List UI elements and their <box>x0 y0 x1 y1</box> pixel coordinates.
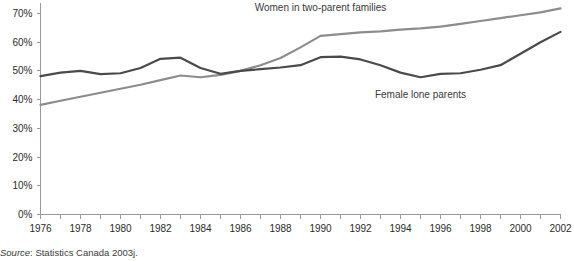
x-tick-label: 1990 <box>309 223 332 234</box>
y-tick-label: 0% <box>18 209 33 220</box>
series-line-female-lone-parents <box>41 32 561 77</box>
x-tick-label: 2002 <box>549 223 572 234</box>
x-tick-label: 1980 <box>109 223 132 234</box>
source-note: Source: Statistics Canada 2003j. <box>0 247 138 258</box>
x-tick-label: 1986 <box>229 223 252 234</box>
x-tick-label: 1994 <box>389 223 412 234</box>
series-annotations: Women in two-parent familiesFemale lone … <box>255 2 466 100</box>
y-tick-label: 40% <box>12 94 32 105</box>
plot-area <box>41 8 561 104</box>
source-text: Statistics Canada 2003j. <box>35 247 137 258</box>
chart-canvas: 0%10%20%30%40%50%60%70% 1976197819801982… <box>0 0 574 261</box>
y-tick-label: 10% <box>12 180 32 191</box>
x-tick-label: 1982 <box>149 223 172 234</box>
x-tick-label: 1978 <box>69 223 92 234</box>
x-tick-label: 2000 <box>509 223 532 234</box>
series-annotation-label: Women in two-parent families <box>255 2 387 13</box>
x-tick-label: 1996 <box>429 223 452 234</box>
y-tick-label: 50% <box>12 65 32 76</box>
x-tick-label: 1992 <box>349 223 372 234</box>
y-tick-label: 70% <box>12 8 32 19</box>
line-chart: 0%10%20%30%40%50%60%70% 1976197819801982… <box>0 0 574 261</box>
series-line-women-in-two-parent-families <box>41 8 561 104</box>
x-tick-label: 1976 <box>29 223 52 234</box>
x-tick-label: 1998 <box>469 223 492 234</box>
x-tick-label: 1988 <box>269 223 292 234</box>
y-tick-label: 60% <box>12 37 32 48</box>
source-prefix: Source <box>0 247 30 258</box>
y-tick-label: 20% <box>12 152 32 163</box>
y-tick-label: 30% <box>12 123 32 134</box>
x-axis: 1976197819801982198419861988199019921994… <box>29 215 572 234</box>
series-annotation-label: Female lone parents <box>375 89 466 100</box>
x-tick-label: 1984 <box>189 223 212 234</box>
y-axis: 0%10%20%30%40%50%60%70% <box>12 3 40 221</box>
